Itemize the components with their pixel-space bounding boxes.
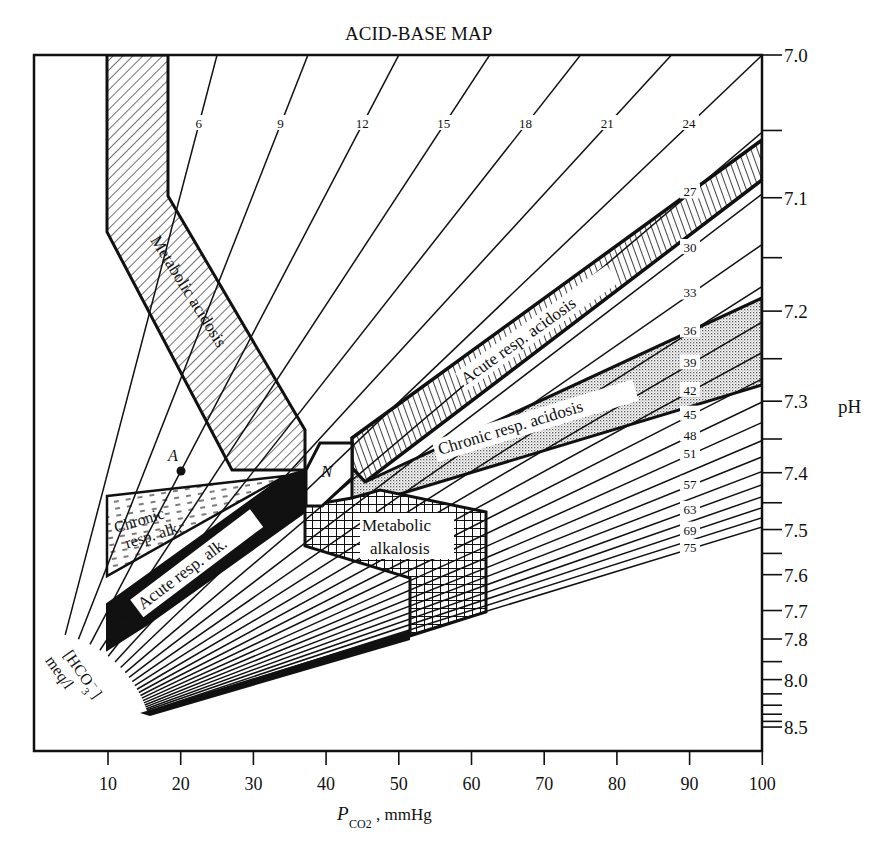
isopleth-label-21: 21 [601, 116, 614, 131]
x-tick-label-90: 90 [681, 774, 699, 794]
chart-title: ACID-BASE MAP [345, 23, 492, 44]
x-axis-label-sub: CO2 [349, 817, 372, 831]
x-tick-label-10: 10 [99, 774, 117, 794]
isopleth-label-75: 75 [684, 540, 697, 555]
ph-tick-label-7.2: 7.2 [784, 301, 808, 322]
isopleth-label-27: 27 [684, 184, 698, 199]
isopleth-label-45: 45 [684, 407, 697, 422]
isopleth-label-69: 69 [684, 523, 697, 538]
label-point-a: A [167, 447, 178, 464]
x-axis: 102030405060708090100 [99, 751, 776, 794]
isopleth-label-36: 36 [684, 323, 698, 338]
ph-tick-label-8.0: 8.0 [784, 670, 808, 691]
isopleth-label-15: 15 [437, 116, 450, 131]
ph-tick-label-7.0: 7.0 [784, 45, 808, 66]
ph-tick-label-8.5: 8.5 [784, 717, 808, 738]
x-tick-label-80: 80 [608, 774, 626, 794]
isopleth-label-63: 63 [684, 502, 697, 517]
acid-base-map-chart: ACID-BASE MAP 69121518212427303336394245… [0, 0, 895, 855]
isopleth-label-30: 30 [684, 240, 697, 255]
isopleth-label-57: 57 [684, 477, 698, 492]
ph-tick-label-7.3: 7.3 [784, 391, 808, 412]
x-tick-label-50: 50 [390, 774, 408, 794]
isopleth-label-24: 24 [682, 116, 696, 131]
ph-tick-label-7.4: 7.4 [784, 463, 808, 484]
x-axis-label-p: P [336, 803, 349, 824]
x-tick-label-60: 60 [463, 774, 481, 794]
isopleth-label-9: 9 [277, 116, 284, 131]
isopleth-label-48: 48 [684, 428, 697, 443]
x-tick-label-100: 100 [749, 774, 776, 794]
isopleth-label-12: 12 [356, 116, 369, 131]
ph-axis-label: pH [838, 396, 862, 417]
isopleth-label-51: 51 [684, 446, 697, 461]
label-metabolic-alkalosis-1: Metabolic [362, 516, 431, 535]
x-tick-label-20: 20 [172, 774, 190, 794]
ph-tick-label-7.1: 7.1 [784, 188, 808, 209]
ph-tick-label-7.8: 7.8 [784, 629, 808, 650]
point-a-marker [177, 467, 186, 476]
ph-tick-label-7.6: 7.6 [784, 565, 808, 586]
label-metabolic-alkalosis-2: alkalosis [370, 539, 430, 558]
isopleth-label-33: 33 [684, 285, 697, 300]
ph-tick-label-7.7: 7.7 [784, 601, 808, 622]
x-axis-label: P CO2 , mmHg [336, 803, 432, 831]
isopleth-label-39: 39 [684, 355, 697, 370]
x-tick-label-30: 30 [244, 774, 262, 794]
x-tick-label-70: 70 [535, 774, 553, 794]
ph-axis: 7.07.17.27.37.47.57.67.77.88.08.5 [762, 45, 808, 738]
label-normal: N [320, 462, 334, 481]
ph-tick-label-7.5: 7.5 [784, 520, 808, 541]
x-axis-label-unit: , mmHg [376, 805, 432, 824]
x-tick-label-40: 40 [317, 774, 335, 794]
isopleth-54 [144, 441, 762, 703]
isopleth-label-18: 18 [519, 116, 532, 131]
isopleth-label-42: 42 [684, 383, 697, 398]
isopleth-label-6: 6 [195, 116, 202, 131]
label-acute-resp-acidosis: Acute resp. acidosis [457, 294, 579, 389]
